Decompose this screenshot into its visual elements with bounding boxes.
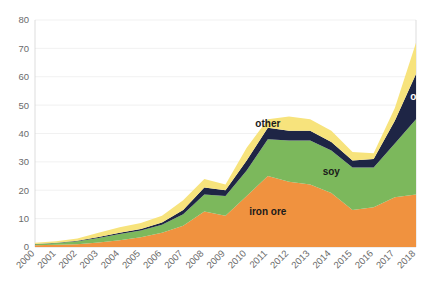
y-tick-label-70: 70	[18, 43, 29, 54]
y-tick-label-60: 60	[18, 71, 29, 82]
y-tick-label-40: 40	[18, 128, 29, 139]
y-axis-tick-labels: 01020304050607080	[18, 14, 29, 252]
stacked-area-chart: 01020304050607080 2000200120022003200420…	[0, 0, 430, 296]
y-tick-label-50: 50	[18, 100, 29, 111]
y-tick-label-30: 30	[18, 156, 29, 167]
y-tick-label-20: 20	[18, 185, 29, 196]
series-annotation-iron-ore: iron ore	[249, 206, 287, 217]
chart-canvas: 01020304050607080 2000200120022003200420…	[0, 0, 430, 296]
series-annotation-other: other	[255, 118, 280, 129]
series-annotation-soy: soy	[323, 166, 341, 177]
y-tick-label-80: 80	[18, 14, 29, 25]
y-tick-label-10: 10	[18, 213, 29, 224]
series-annotation-oil: oil	[410, 91, 422, 102]
